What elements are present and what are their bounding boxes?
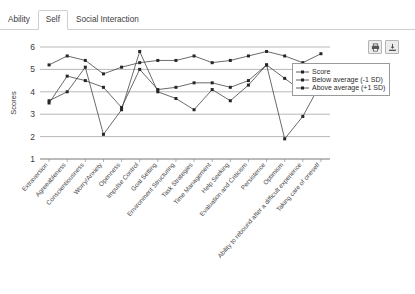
- tab-ability[interactable]: Ability: [0, 10, 38, 30]
- legend-item-above-average[interactable]: Above average (+1 SD): [296, 84, 385, 91]
- data-point: [120, 106, 123, 109]
- data-point: [156, 59, 159, 62]
- data-point: [102, 86, 105, 89]
- y-tick-label: 1: [30, 154, 35, 164]
- series-line: [49, 51, 321, 73]
- data-point: [102, 133, 105, 136]
- data-point: [283, 77, 286, 80]
- data-point: [48, 102, 51, 105]
- legend-marker-icon: [296, 77, 309, 83]
- y-tick-label: 4: [30, 87, 35, 97]
- data-point: [211, 88, 214, 91]
- legend-item-below-average[interactable]: Below average (-1 SD): [296, 76, 385, 83]
- series-score: [48, 50, 323, 140]
- data-point: [247, 84, 250, 87]
- tab-bar: Ability Self Social Interaction: [0, 8, 415, 30]
- data-point: [84, 66, 87, 69]
- data-point: [193, 54, 196, 57]
- data-point: [319, 52, 322, 55]
- data-point: [211, 81, 214, 84]
- data-point: [193, 81, 196, 84]
- data-point: [84, 59, 87, 62]
- series-above-average-1-sd: [48, 50, 323, 75]
- data-point: [48, 63, 51, 66]
- y-tick-label: 2: [30, 132, 35, 142]
- y-tick-label: 6: [30, 42, 35, 52]
- data-point: [174, 59, 177, 62]
- data-point: [102, 72, 105, 75]
- data-point: [211, 61, 214, 64]
- data-point: [174, 97, 177, 100]
- data-point: [229, 86, 232, 89]
- data-point: [247, 54, 250, 57]
- data-point: [84, 79, 87, 82]
- legend-label: Score: [312, 68, 330, 75]
- data-point: [265, 63, 268, 66]
- tab-self[interactable]: Self: [38, 10, 68, 30]
- data-point: [283, 137, 286, 140]
- data-point: [66, 54, 69, 57]
- data-point: [156, 88, 159, 91]
- data-point: [229, 59, 232, 62]
- data-point: [283, 54, 286, 57]
- series-below-average-1-sd: [48, 63, 323, 109]
- data-point: [229, 99, 232, 102]
- y-tick-label: 5: [30, 64, 35, 74]
- legend-marker-icon: [296, 69, 309, 75]
- data-point: [138, 50, 141, 53]
- data-point: [301, 115, 304, 118]
- chart-legend: Score Below average (-1 SD) Above averag…: [292, 63, 390, 96]
- data-point: [265, 50, 268, 53]
- y-axis-title: Scores: [9, 91, 18, 115]
- chart-page: Ability Self Social Interaction 123456Sc…: [0, 0, 415, 294]
- y-tick-label: 3: [30, 109, 35, 119]
- series-line: [49, 65, 321, 108]
- tab-social-interaction[interactable]: Social Interaction: [68, 10, 147, 30]
- data-point: [66, 75, 69, 78]
- data-point: [247, 79, 250, 82]
- data-point: [120, 66, 123, 69]
- data-point: [138, 68, 141, 71]
- legend-label: Below average (-1 SD): [312, 76, 383, 83]
- series-line: [49, 51, 321, 138]
- legend-marker-icon: [296, 85, 309, 91]
- data-point: [174, 86, 177, 89]
- legend-item-score[interactable]: Score: [296, 68, 385, 75]
- legend-label: Above average (+1 SD): [312, 84, 385, 91]
- data-point: [193, 108, 196, 111]
- data-point: [138, 61, 141, 64]
- data-point: [66, 90, 69, 93]
